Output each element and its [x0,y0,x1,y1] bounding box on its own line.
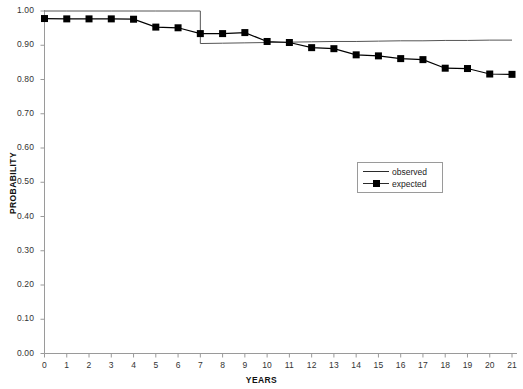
y-axis-tick-label: 0.80 [6,74,34,84]
y-axis-ticks [41,11,45,354]
x-axis-tick-label: 18 [436,360,454,370]
y-axis-tick-label: 0.20 [6,279,34,289]
x-axis-tick-label: 15 [369,360,387,370]
x-axis-tick-label: 10 [258,360,276,370]
data-point-marker [375,52,382,59]
x-axis-tick-label: 19 [458,360,476,370]
plot-canvas [0,0,523,389]
axes-group [45,10,518,354]
legend-item-observed: observed [362,166,427,178]
x-axis-tick-label: 4 [125,360,143,370]
y-axis-tick-label: 0.00 [6,348,34,358]
data-point-marker [464,65,471,72]
data-point-marker [509,71,516,78]
data-point-marker [130,16,137,23]
data-point-marker [108,15,115,22]
x-axis-title: YEARS [0,375,523,385]
x-axis-tick-label: 6 [169,360,187,370]
x-axis-tick-label: 3 [102,360,120,370]
x-axis-tick-label: 5 [147,360,165,370]
data-point-marker [286,39,293,46]
data-point-marker [86,15,93,22]
data-point-marker [308,44,315,51]
y-axis-tick-label: 0.70 [6,108,34,118]
legend-label-expected: expected [392,179,427,189]
data-point-marker [486,71,493,78]
data-point-marker [397,55,404,62]
data-point-marker [197,30,204,37]
x-axis-tick-label: 20 [481,360,499,370]
x-axis-tick-label: 17 [414,360,432,370]
x-axis-tick-label: 14 [347,360,365,370]
x-axis-tick-label: 11 [280,360,298,370]
x-axis-tick-label: 16 [392,360,410,370]
data-point-marker [264,38,271,45]
survival-probability-chart: 0.000.100.200.300.400.500.600.700.800.90… [0,0,523,389]
x-axis-tick-label: 8 [214,360,232,370]
x-axis-ticks [45,354,513,358]
legend-label-observed: observed [392,167,427,177]
y-axis-tick-label: 0.90 [6,39,34,49]
x-axis-tick-label: 21 [503,360,521,370]
x-axis-tick-label: 0 [36,360,54,370]
legend-item-expected: expected [362,178,427,190]
data-point-marker [419,56,426,63]
data-point-marker [175,24,182,31]
x-axis-tick-label: 1 [58,360,76,370]
y-axis-tick-label: 0.10 [6,313,34,323]
data-point-marker [330,45,337,52]
x-axis-tick-label: 13 [325,360,343,370]
x-axis-tick-label: 2 [80,360,98,370]
data-point-marker [219,30,226,37]
y-axis-title: PROBABILITY [8,143,18,223]
data-point-marker [63,15,70,22]
x-axis-tick-label: 12 [303,360,321,370]
x-axis-tick-label: 9 [236,360,254,370]
data-point-marker [442,65,449,72]
chart-legend: observed expected [357,162,443,193]
y-axis-tick-label: 1.00 [6,5,34,15]
x-axis-tick-label: 7 [191,360,209,370]
data-point-marker [353,51,360,58]
y-axis-tick-label: 0.30 [6,245,34,255]
legend-line-sample-icon [362,167,390,177]
data-series-group [41,11,516,78]
legend-square-marker-icon [362,179,390,189]
data-point-marker [152,24,159,31]
data-point-marker [41,15,48,22]
data-point-marker [241,29,248,36]
